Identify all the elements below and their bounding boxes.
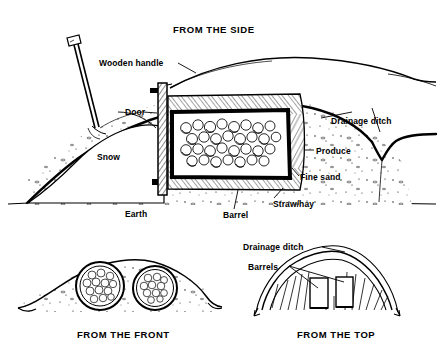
label-straw-hay: Straw/hay: [273, 199, 314, 209]
front-barrel-right: [133, 266, 177, 310]
label-barrel: Barrel: [223, 210, 248, 220]
wooden-handle-shape: [67, 35, 106, 139]
label-snow: Snow: [97, 152, 120, 162]
label-barrels-top: Barrels: [248, 262, 278, 272]
top-barrel-right: [336, 277, 353, 307]
caption-from-the-side: FROM THE SIDE: [173, 24, 255, 35]
illustration-artwork: [0, 0, 443, 349]
top-view-group: [254, 246, 400, 316]
label-door: Door: [125, 107, 145, 117]
front-barrel-left: [76, 262, 124, 310]
label-wooden-handle: Wooden handle: [99, 58, 163, 68]
label-fine-sand: Fine sand: [300, 172, 341, 182]
top-barrel-left: [310, 278, 328, 308]
front-view-group: [18, 250, 222, 316]
label-drainage-ditch-side: Drainage ditch: [331, 116, 391, 126]
figure-canvas: FROM THE SIDE Wooden handle Door Snow Ea…: [0, 0, 443, 349]
caption-from-the-top: FROM THE TOP: [297, 329, 375, 340]
label-produce: Produce: [316, 146, 351, 156]
door-panel: [158, 83, 167, 195]
label-drainage-ditch-top: Drainage ditch: [243, 242, 303, 252]
caption-from-the-front: FROM THE FRONT: [77, 329, 170, 340]
label-earth: Earth: [125, 209, 147, 219]
